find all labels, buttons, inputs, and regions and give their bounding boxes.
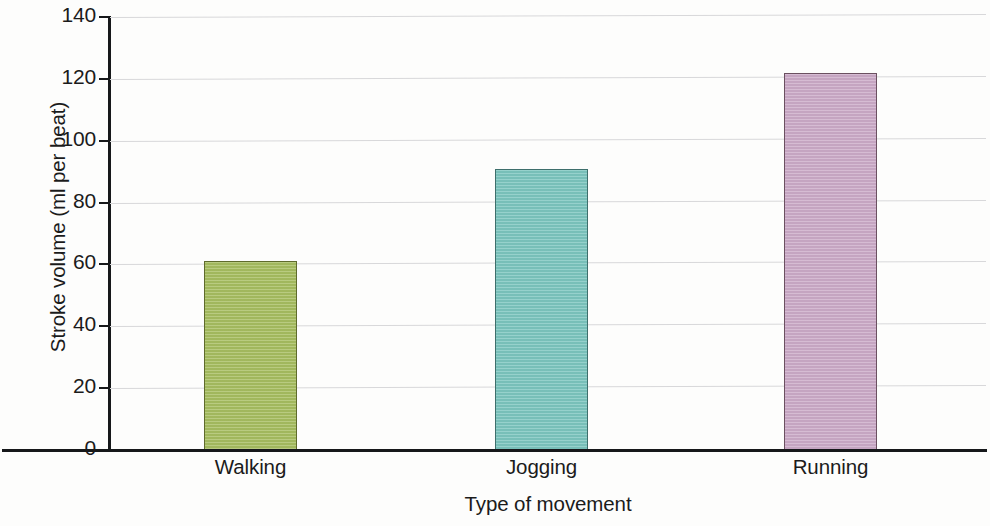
bar-walking	[204, 261, 297, 450]
y-tick-mark	[99, 78, 108, 80]
y-tick-mark	[99, 387, 108, 389]
gridline	[110, 14, 986, 18]
x-category-label-running: Running	[731, 455, 931, 479]
x-axis-title: Type of movement	[110, 492, 986, 516]
x-axis-line	[2, 449, 987, 452]
y-tick-label: 60	[6, 250, 96, 274]
bar-jogging	[495, 169, 588, 450]
x-category-label-jogging: Jogging	[442, 455, 642, 479]
bar-running	[784, 73, 877, 450]
y-tick-label: 20	[6, 374, 96, 398]
bar-chart-figure: Stroke volume (ml per beat) Type of move…	[0, 0, 990, 526]
y-tick-mark	[99, 140, 108, 142]
y-tick-mark	[99, 325, 108, 327]
y-tick-mark	[99, 16, 108, 18]
y-tick-label: 120	[6, 65, 96, 89]
y-tick-mark	[99, 202, 108, 204]
y-tick-mark	[99, 263, 108, 265]
y-tick-mark	[99, 449, 108, 451]
y-tick-label: 100	[6, 127, 96, 151]
plot-area	[110, 17, 986, 450]
y-tick-label: 80	[6, 189, 96, 213]
y-tick-label: 0	[6, 436, 96, 460]
y-tick-label: 140	[6, 3, 96, 27]
y-tick-label: 40	[6, 312, 96, 336]
x-category-label-walking: Walking	[151, 455, 351, 479]
